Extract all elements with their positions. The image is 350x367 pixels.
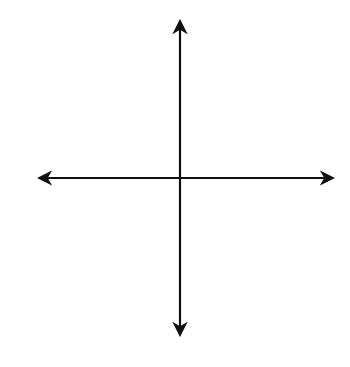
graph-canvas [0, 0, 350, 367]
